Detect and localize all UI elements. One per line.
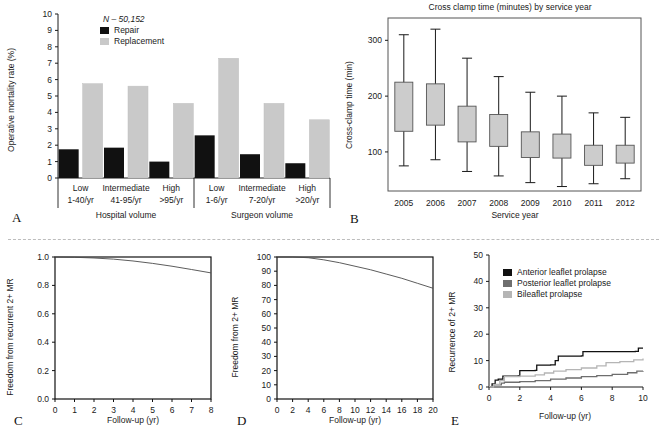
y-tick-label: 90: [262, 266, 272, 276]
panel-a-bar-replacement: [83, 84, 103, 178]
panel-e-line-chart: Recurrence of 2+ MR 01020304050 0246810 …: [445, 247, 667, 429]
panel-c-x-axis-label: Follow-up (yr): [107, 415, 159, 425]
x-tick-label: 7: [189, 405, 194, 415]
panel-e-x-labels: 0246810: [487, 387, 648, 403]
panel-d-y-axis-label: Freedom from 2+ MR: [230, 296, 240, 377]
panel-a-category-label: High: [299, 183, 317, 193]
panel-b-y-axis-label: Cross-clamp time (min): [344, 61, 354, 149]
panel-a-y-tick-label: 4: [47, 107, 52, 117]
panel-b-x-tick-label: 2009: [521, 198, 540, 208]
y-tick-label: 30: [262, 351, 272, 361]
panel-b-y-tick-label: 300: [368, 35, 382, 45]
x-tick-label: 2: [290, 405, 295, 415]
panel-b-box: [395, 82, 413, 131]
panel-c-plot-frame: [55, 257, 211, 399]
panel-e-y-tick-label: 0: [478, 382, 483, 392]
panel-b-x-tick-label: 2012: [616, 198, 635, 208]
panel-a-category-sublabel: 41-95/yr: [110, 195, 141, 205]
panel-d-svg: Freedom from 2+ MR 010203040506070809010…: [225, 247, 453, 429]
y-tick-label: 40: [262, 337, 272, 347]
panel-e-legend-swatch: [503, 291, 512, 298]
panel-a-bar-replacement: [264, 103, 284, 178]
x-tick-label: 6: [170, 405, 175, 415]
panel-e-legend-swatch: [503, 269, 512, 276]
x-tick-label: 6: [321, 405, 326, 415]
x-tick-label: 2: [92, 405, 97, 415]
x-tick-label: 8: [337, 405, 342, 415]
panel-d-plot-frame: [277, 257, 433, 399]
x-tick-label: 10: [350, 405, 360, 415]
panel-a-category-sublabel: 7-20/yr: [249, 195, 276, 205]
panel-b-box: [490, 115, 508, 147]
panel-b-plot-frame: [388, 18, 641, 191]
panel-e-x-tick-label: 2: [517, 393, 522, 403]
panel-b-box: [553, 134, 571, 158]
panel-a-bar-replacement: [219, 58, 239, 178]
y-tick-label: 1.0: [37, 252, 49, 262]
y-tick-label: 0.8: [37, 280, 49, 290]
panel-a-y-tick-label: 6: [47, 75, 52, 85]
y-tick-label: 0: [266, 394, 271, 404]
panel-e-y-tick-label: 20: [474, 329, 484, 339]
x-tick-label: 8: [209, 405, 214, 415]
y-tick-label: 20: [262, 366, 272, 376]
panel-a-group-label: Hospital volume: [96, 210, 157, 220]
panel-d-y-ticks: 0102030405060708090100: [257, 252, 277, 404]
panel-b-y-tick-label: 200: [368, 91, 382, 101]
panel-a-bar-replacement: [128, 86, 148, 178]
panel-a-svg: 012345678910 Operative mortality rate (%…: [0, 0, 340, 232]
panel-a-y-tick-label: 1: [47, 157, 52, 167]
x-tick-label: 1: [72, 405, 77, 415]
panel-c-letter: C: [14, 413, 23, 428]
x-tick-label: 18: [413, 405, 423, 415]
panel-a-legend: N – 50,152RepairReplacement: [100, 14, 165, 46]
panel-b-letter: B: [350, 211, 359, 226]
panel-c-y-axis-label: Freedom from recurrent 2+ MR: [5, 278, 15, 395]
panel-a-y-tick-label: 5: [47, 91, 52, 101]
panel-a-y-tick-label: 0: [47, 173, 52, 183]
panel-b-x-tick-label: 2005: [394, 198, 413, 208]
panel-a-category-sublabel: 1-6/yr: [206, 195, 228, 205]
panel-b-x-tick-label: 2010: [552, 198, 571, 208]
y-tick-label: 70: [262, 295, 272, 305]
y-tick-label: 0.2: [37, 366, 49, 376]
panel-a-category-sublabel: >95/yr: [159, 195, 183, 205]
panel-a-bar-repair: [149, 162, 169, 178]
panel-c-y-ticks: 0.00.20.40.60.81.0: [37, 252, 55, 404]
panel-a-y-tick-label: 2: [47, 140, 52, 150]
panel-a-y-tick-label: 8: [47, 42, 52, 52]
panel-d-line-chart: Freedom from 2+ MR 010203040506070809010…: [225, 247, 453, 429]
panel-e-legend-label: Posterior leaflet prolapse: [517, 278, 611, 288]
x-tick-label: 5: [150, 405, 155, 415]
panel-a-bar-repair: [104, 148, 124, 178]
panel-b-x-tick-label: 2006: [426, 198, 445, 208]
x-tick-label: 0: [275, 405, 280, 415]
panel-a-category-label: Intermediate: [102, 183, 150, 193]
panel-e-legend: Anterior leaflet prolapsePosterior leafl…: [503, 267, 611, 299]
x-tick-label: 12: [366, 405, 376, 415]
x-tick-label: 16: [397, 405, 407, 415]
panel-a-group-label: Surgeon volume: [231, 210, 293, 220]
panel-e-curves: [489, 348, 643, 387]
panel-b-y-ticks: 100200300: [368, 35, 388, 157]
panel-a-bar-chart: 012345678910 Operative mortality rate (%…: [0, 0, 340, 232]
panel-a-category-sublabel: 1-40/yr: [67, 195, 94, 205]
panel-a-y-axis-label: Operative mortality rate (%): [6, 48, 16, 152]
panel-a-category-label: High: [163, 183, 181, 193]
panel-b-x-tick-label: 2007: [458, 198, 477, 208]
x-tick-label: 14: [381, 405, 391, 415]
panel-a-category-label: Intermediate: [238, 183, 286, 193]
panel-a-legend-label: Repair: [114, 25, 139, 35]
x-tick-label: 4: [131, 405, 136, 415]
panel-c-svg: Freedom from recurrent 2+ MR 0.00.20.40.…: [0, 247, 228, 429]
panel-a-bar-repair: [59, 149, 79, 178]
panel-e-legend-swatch: [503, 280, 512, 287]
panel-b-box: [521, 132, 539, 158]
panel-e-x-tick-label: 10: [638, 393, 648, 403]
y-tick-label: 80: [262, 280, 272, 290]
panel-a-sample-size-annotation: N – 50,152: [103, 14, 145, 24]
panel-c-x-labels: 012345678: [53, 399, 214, 415]
panel-e-letter: E: [451, 413, 459, 428]
panel-e-svg: Recurrence of 2+ MR 01020304050 0246810 …: [445, 247, 667, 429]
x-tick-label: 20: [428, 405, 438, 415]
